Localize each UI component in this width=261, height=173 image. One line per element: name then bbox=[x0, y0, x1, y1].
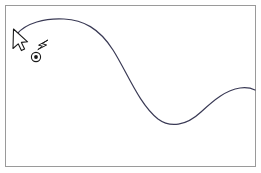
drawing-frame-border bbox=[6, 6, 256, 167]
anchor-point-dot[interactable] bbox=[34, 55, 38, 59]
pen-tool-canvas-app: Vector drawing canvas with a smooth S-cu… bbox=[0, 0, 261, 173]
canvas-svg-root[interactable] bbox=[0, 0, 261, 173]
drawing-canvas[interactable] bbox=[0, 0, 261, 173]
